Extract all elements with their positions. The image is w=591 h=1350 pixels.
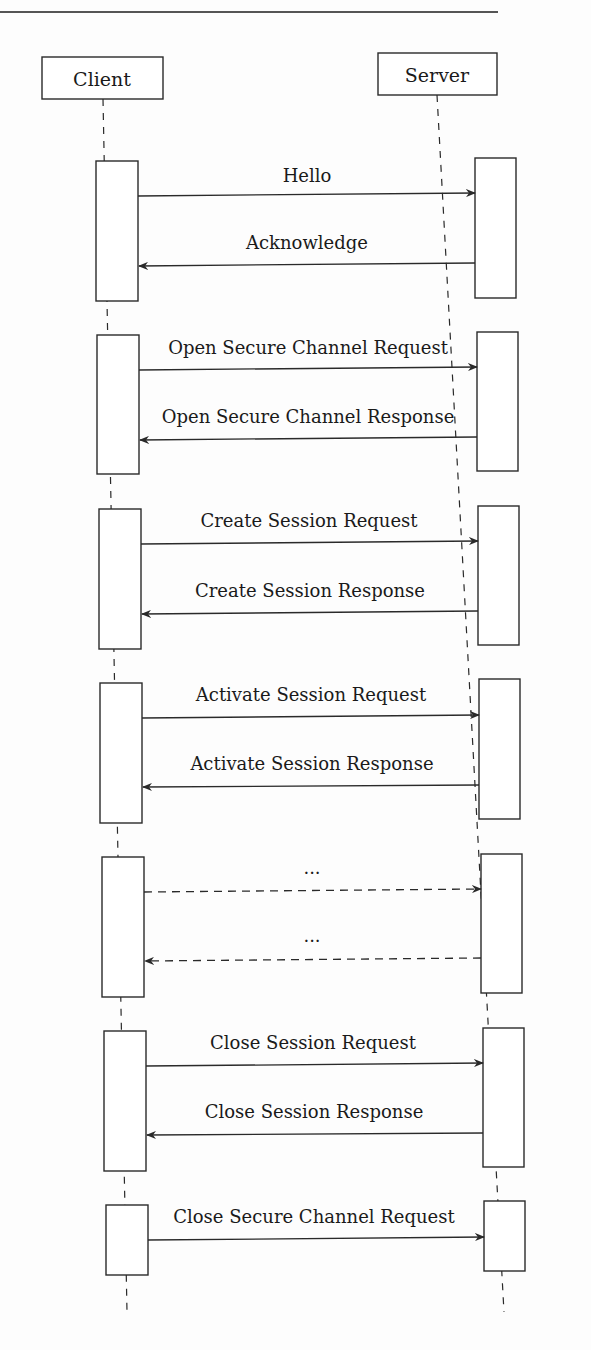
message-label: Acknowledge [245,232,368,253]
message-label: Create Session Request [200,510,418,531]
message-label: Hello [283,165,332,186]
message-label: Open Secure Channel Request [168,337,449,358]
message-label: Create Session Response [195,580,425,601]
message-arrow-response [140,437,477,440]
client-activation [99,509,141,649]
message-arrow-request [138,193,475,196]
message-label: Open Secure Channel Response [162,406,455,427]
message-label: ... [303,925,320,946]
server-activation [475,158,516,298]
sequence-diagram: Client Server Hello Acknowledge Open Sec… [0,0,591,1350]
server-activation [481,854,522,993]
phase-close-session: Close Session Request Close Session Resp… [104,1028,524,1171]
message-label: Activate Session Response [189,753,433,774]
client-activation [100,683,142,823]
actor-client: Client [42,57,163,99]
message-arrow-request [146,1063,483,1066]
client-activation [104,1031,146,1171]
phase-open-secure-channel: Open Secure Channel Request Open Secure … [97,332,518,474]
server-activation [478,506,519,645]
message-arrow-request [142,715,479,718]
actor-server: Server [378,53,497,95]
phase-activate-session: Activate Session Request Activate Sessio… [100,679,520,823]
message-label: Close Secure Channel Request [173,1206,455,1227]
message-arrow-request [139,367,477,370]
message-arrow-response [147,1133,483,1135]
client-activation [96,161,138,301]
message-arrow-request [144,889,481,892]
message-arrow-response [142,611,478,614]
message-label: Close Session Request [210,1032,417,1053]
message-arrow-request [141,541,478,544]
message-arrow-response [143,785,479,787]
phase-create-session: Create Session Request Create Session Re… [99,506,519,649]
client-activation [106,1205,148,1275]
actor-client-label: Client [73,68,131,90]
message-arrow-request [148,1237,484,1240]
actor-server-label: Server [405,64,470,86]
message-label: ... [303,857,320,878]
client-activation [97,335,139,474]
client-activation [102,857,144,997]
phase-ellipsis: ... ... [102,854,522,997]
message-arrow-response [139,263,475,266]
server-activation [479,679,520,819]
message-label: Activate Session Request [195,684,427,705]
page: Client Server Hello Acknowledge Open Sec… [0,0,591,1350]
message-arrow-response [145,958,481,961]
phase-close-secure-channel: Close Secure Channel Request [106,1201,525,1275]
phase-hello: Hello Acknowledge [96,158,516,301]
server-activation [483,1028,524,1167]
server-activation [477,332,518,471]
server-activation [484,1201,525,1271]
message-label: Close Session Response [205,1101,424,1122]
